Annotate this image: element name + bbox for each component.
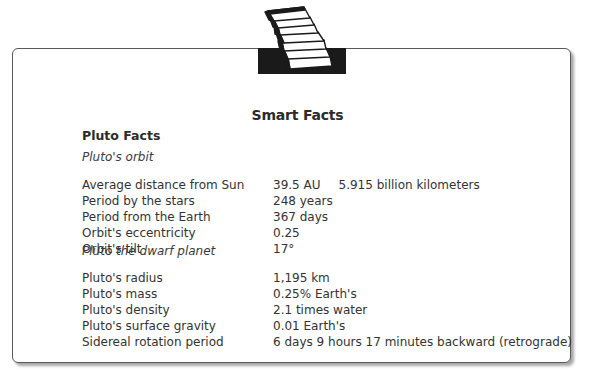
fact-extra-value: 5.915 billion kilometers	[339, 177, 480, 193]
fact-label: Period from the Earth	[82, 209, 273, 225]
fact-row: Sidereal rotation period 6 days 9 hours …	[82, 334, 572, 350]
fact-value: 1,195 km	[273, 270, 330, 286]
fact-label: Period by the stars	[82, 193, 273, 209]
fact-value: 367 days	[273, 209, 328, 225]
fact-label: Pluto's mass	[82, 286, 273, 302]
fact-label: Average distance from Sun	[82, 177, 273, 193]
fact-value: 0.01 Earth's	[273, 318, 345, 334]
fact-row: Period by the stars 248 years	[82, 193, 480, 209]
fact-value: 17°	[273, 241, 294, 257]
fact-label: Orbit's eccentricity	[82, 225, 273, 241]
fact-value: 6 days 9 hours 17 minutes backward (retr…	[273, 334, 572, 350]
stacked-books-icon	[258, 2, 346, 74]
fact-label: Pluto's radius	[82, 270, 273, 286]
fact-row: Average distance from Sun 39.5 AU 5.915 …	[82, 177, 480, 193]
card-title: Smart Facts	[0, 107, 595, 123]
fact-label: Pluto's surface gravity	[82, 318, 273, 334]
fact-label: Pluto's density	[82, 302, 273, 318]
section-heading: Pluto Facts	[82, 128, 160, 143]
fact-row: Pluto's surface gravity 0.01 Earth's	[82, 318, 572, 334]
fact-value: 2.1 times water	[273, 302, 367, 318]
fact-row: Pluto's mass 0.25% Earth's	[82, 286, 572, 302]
fact-value: 248 years	[273, 193, 333, 209]
fact-value: 39.5 AU	[273, 177, 321, 193]
fact-value: 0.25% Earth's	[273, 286, 357, 302]
subheading-dwarf-planet: Pluto the dwarf planet	[82, 244, 215, 258]
subheading-pluto-orbit: Pluto's orbit	[82, 150, 154, 164]
dwarf-planet-facts-list: Pluto's radius 1,195 km Pluto's mass 0.2…	[82, 270, 572, 350]
fact-row: Pluto's radius 1,195 km	[82, 270, 572, 286]
fact-value: 0.25	[273, 225, 300, 241]
fact-label: Sidereal rotation period	[82, 334, 273, 350]
fact-row: Period from the Earth 367 days	[82, 209, 480, 225]
fact-row: Pluto's density 2.1 times water	[82, 302, 572, 318]
fact-row: Orbit's eccentricity 0.25	[82, 225, 480, 241]
